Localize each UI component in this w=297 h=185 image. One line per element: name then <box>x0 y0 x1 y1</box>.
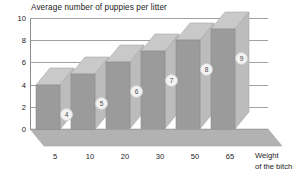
x-tick-65: 65 <box>226 152 234 161</box>
y-tick-2: 2 <box>22 102 26 111</box>
y-tick-0: 0 <box>22 125 26 134</box>
bar-value-10: 5 <box>95 97 108 110</box>
bar-group-10[interactable] <box>71 74 95 147</box>
bar-group-65[interactable] <box>211 29 235 146</box>
chart-title: Average number of puppies per litter <box>31 3 167 12</box>
bar-group-5[interactable] <box>36 85 60 146</box>
x-tick-20: 20 <box>121 152 129 161</box>
bar-3d-20 <box>106 62 144 146</box>
bar-value-65: 9 <box>235 52 248 65</box>
x-tick-10: 10 <box>86 152 94 161</box>
bar-3d-10 <box>71 74 109 147</box>
chart-container: Average number of puppies per litter 0 2… <box>0 0 297 185</box>
x-axis-label-line1: Weight <box>255 151 292 162</box>
x-axis-label: Weight of the bitch <box>255 151 292 172</box>
y-tick-8: 8 <box>22 36 26 45</box>
bar-group-30[interactable] <box>141 51 165 146</box>
bar-value-5: 4 <box>60 108 73 121</box>
x-tick-5: 5 <box>53 152 57 161</box>
x-axis-label-line2: of the bitch <box>255 162 292 173</box>
y-tick-6: 6 <box>22 58 26 67</box>
y-tick-10: 10 <box>18 14 26 23</box>
bar-3d-50 <box>176 40 214 146</box>
bar-group-50[interactable] <box>176 40 200 146</box>
y-axis-labels: 0 2 4 6 8 10 <box>0 18 26 129</box>
bar-3d-30 <box>141 51 179 146</box>
bar-3d-65 <box>211 29 249 146</box>
x-tick-50: 50 <box>191 152 199 161</box>
y-tick-4: 4 <box>22 80 26 89</box>
bar-group-20[interactable] <box>106 62 130 146</box>
x-tick-30: 30 <box>156 152 164 161</box>
